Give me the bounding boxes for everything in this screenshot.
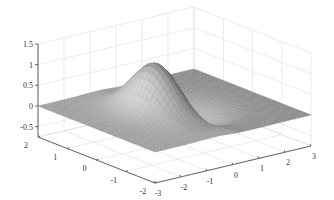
z-tick-label: 0.5 [23, 81, 33, 90]
y-tick-label: -1 [110, 176, 117, 185]
x-tick-label: -3 [155, 189, 162, 198]
x-tick-label: -2 [181, 183, 188, 192]
z-tick-label: -0.5 [20, 123, 33, 132]
x-tick-label: -1 [207, 177, 214, 186]
x-tick-label: 1 [260, 164, 264, 173]
z-tick-label: 1.5 [23, 40, 33, 49]
y-tick-label: 0 [83, 164, 87, 173]
y-tick-label: 1 [53, 153, 57, 162]
surface-plot: -0.500.511.5-2-1012-3-2-10123 [0, 0, 334, 200]
x-tick-label: 2 [286, 158, 290, 167]
x-tick-label: 3 [312, 152, 316, 161]
y-tick-label: 2 [24, 141, 28, 150]
x-tick-label: 0 [234, 171, 238, 180]
z-tick-label: 1 [29, 61, 33, 70]
z-tick-label: 0 [29, 102, 33, 111]
surface-mesh [38, 63, 311, 152]
y-tick-label: -2 [140, 187, 147, 196]
